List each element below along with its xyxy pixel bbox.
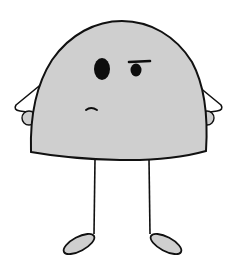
left-foot bbox=[61, 230, 98, 258]
left-leg bbox=[94, 159, 95, 234]
right-leg bbox=[149, 159, 150, 234]
character-figure bbox=[0, 0, 236, 272]
right-eye bbox=[131, 64, 142, 77]
illustration-canvas bbox=[0, 0, 236, 272]
left-eye bbox=[94, 58, 110, 80]
right-eyebrow bbox=[129, 61, 150, 62]
right-foot bbox=[148, 230, 185, 258]
head-body bbox=[31, 21, 207, 160]
